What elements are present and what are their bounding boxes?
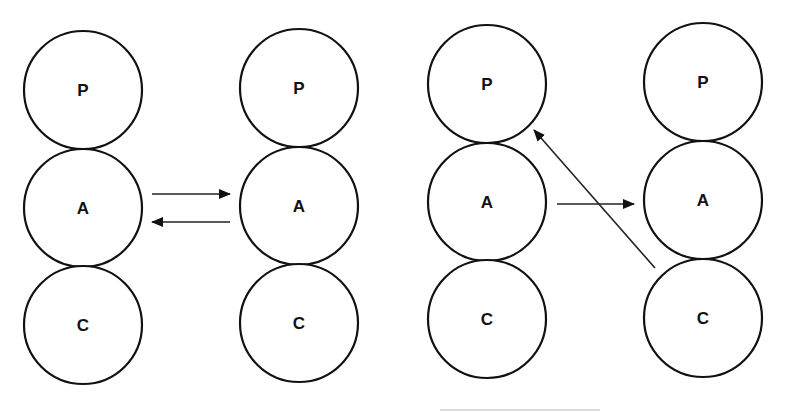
node-label: P — [697, 73, 708, 92]
node-c-left-col-2: C — [240, 264, 358, 382]
node-a-right-col-1: A — [428, 143, 546, 261]
node-label: A — [77, 199, 89, 218]
node-label: C — [697, 309, 709, 328]
node-a-left-col-1: A — [24, 149, 142, 267]
node-label: C — [293, 314, 305, 333]
node-label: P — [77, 81, 88, 100]
node-a-right-col-2: A — [644, 141, 762, 259]
diagram-canvas: PACPACPACPAC — [0, 0, 787, 412]
arrow-icon — [534, 130, 655, 268]
node-label: P — [481, 75, 492, 94]
node-p-right-col-1: P — [428, 25, 546, 143]
node-label: A — [293, 197, 305, 216]
node-c-right-col-1: C — [428, 260, 546, 378]
node-c-left-col-1: C — [24, 266, 142, 384]
node-label: P — [293, 79, 304, 98]
node-p-left-col-2: P — [240, 29, 358, 147]
node-a-left-col-2: A — [240, 147, 358, 265]
node-p-right-col-2: P — [644, 23, 762, 141]
node-c-right-col-2: C — [644, 259, 762, 377]
node-p-left-col-1: P — [24, 31, 142, 149]
node-label: C — [481, 310, 493, 329]
node-label: A — [481, 193, 493, 212]
node-label: C — [77, 316, 89, 335]
arrow-line — [534, 130, 655, 268]
arrows-layer — [152, 130, 655, 268]
nodes-layer: PACPACPACPAC — [24, 23, 762, 384]
node-label: A — [697, 191, 709, 210]
